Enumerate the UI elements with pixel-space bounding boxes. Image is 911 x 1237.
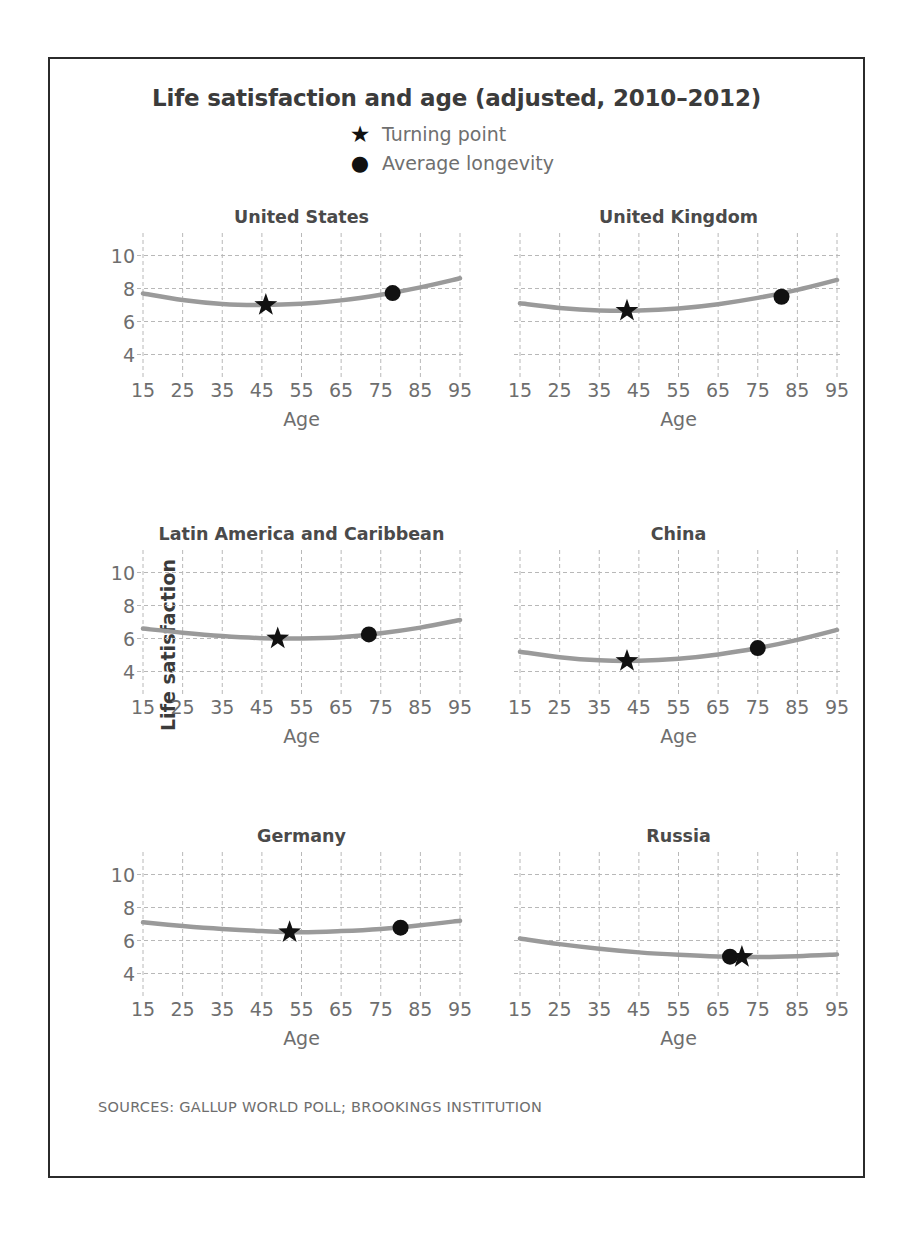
- x-tick-label: 75: [746, 696, 770, 718]
- marker-turning-point: [254, 293, 277, 315]
- x-tick-label: 85: [785, 998, 809, 1020]
- y-tick-label: 6: [123, 930, 135, 952]
- x-tick-label: 25: [548, 696, 572, 718]
- x-tick-label: 65: [706, 379, 730, 401]
- y-tick-label: 6: [123, 311, 135, 333]
- trend-line: [520, 939, 837, 957]
- x-tick-label: 85: [785, 379, 809, 401]
- plot-area-russia: [520, 858, 837, 990]
- x-axis-title: Age: [143, 725, 460, 747]
- x-tick-label: 75: [746, 379, 770, 401]
- y-tick-label: 10: [111, 562, 135, 584]
- panel-germany: Germany46810152535455565758595Age: [95, 826, 467, 1051]
- x-axis-title: Age: [143, 1027, 460, 1049]
- plot-canvas: [520, 556, 837, 688]
- x-axis-title: Age: [520, 725, 837, 747]
- plot-canvas: [520, 239, 837, 371]
- x-tick-label: 55: [666, 379, 690, 401]
- plot-canvas: [520, 858, 837, 990]
- x-axis-title: Age: [520, 1027, 837, 1049]
- x-tick-labels: 152535455565758595: [143, 998, 460, 1024]
- y-tick-labels: 46810: [95, 858, 135, 990]
- x-tick-label: 15: [131, 696, 155, 718]
- x-tick-label: 35: [210, 696, 234, 718]
- x-tick-label: 55: [289, 696, 313, 718]
- x-tick-label: 65: [329, 998, 353, 1020]
- x-tick-label: 45: [627, 998, 651, 1020]
- y-tick-label: 8: [123, 278, 135, 300]
- plot-canvas: [143, 556, 460, 688]
- x-tick-label: 45: [250, 998, 274, 1020]
- x-tick-label: 25: [548, 998, 572, 1020]
- x-tick-label: 75: [369, 998, 393, 1020]
- x-tick-label: 65: [329, 696, 353, 718]
- x-tick-label: 25: [171, 696, 195, 718]
- x-tick-label: 55: [289, 379, 313, 401]
- panel-title-russia: Russia: [496, 826, 861, 846]
- circle-icon: ●: [347, 150, 373, 176]
- marker-average-longevity: [393, 920, 409, 936]
- legend-entry-turning-point: ★ Turning point: [347, 121, 506, 147]
- legend-label-average-longevity: Average longevity: [382, 152, 554, 174]
- plot-area-germany: [143, 858, 460, 990]
- x-axis-title: Age: [143, 408, 460, 430]
- x-tick-label: 85: [408, 696, 432, 718]
- x-tick-label: 95: [448, 998, 472, 1020]
- marker-average-longevity: [361, 626, 377, 642]
- x-tick-label: 85: [408, 998, 432, 1020]
- panel-united-kingdom: United Kingdom152535455565758595Age: [472, 207, 844, 432]
- marker-turning-point: [616, 299, 639, 321]
- panel-title-united-kingdom: United Kingdom: [496, 207, 861, 227]
- x-tick-label: 95: [448, 379, 472, 401]
- x-tick-labels: 152535455565758595: [520, 696, 837, 722]
- plot-area-united-kingdom: [520, 239, 837, 371]
- x-tick-label: 65: [706, 696, 730, 718]
- plot-area-latin-america-and-caribbean: [143, 556, 460, 688]
- panel-latin-america-and-caribbean: Latin America and Caribbean4681015253545…: [95, 524, 467, 749]
- chart-figure: Life satisfaction and age (adjusted, 201…: [48, 57, 865, 1178]
- x-tick-labels: 152535455565758595: [520, 379, 837, 405]
- marker-average-longevity: [385, 285, 401, 301]
- x-tick-label: 15: [508, 379, 532, 401]
- x-tick-label: 35: [587, 696, 611, 718]
- x-tick-label: 55: [666, 696, 690, 718]
- marker-turning-point: [278, 920, 301, 942]
- plot-area-united-states: [143, 239, 460, 371]
- panel-title-germany: Germany: [119, 826, 484, 846]
- x-tick-label: 95: [825, 379, 849, 401]
- marker-average-longevity: [774, 289, 790, 305]
- x-tick-label: 35: [210, 998, 234, 1020]
- y-tick-label: 10: [111, 245, 135, 267]
- x-tick-label: 95: [448, 696, 472, 718]
- x-tick-label: 15: [131, 998, 155, 1020]
- x-tick-label: 75: [369, 379, 393, 401]
- y-tick-label: 8: [123, 897, 135, 919]
- panel-china: China152535455565758595Age: [472, 524, 844, 749]
- x-tick-label: 45: [627, 696, 651, 718]
- x-tick-label: 55: [289, 998, 313, 1020]
- x-tick-label: 25: [548, 379, 572, 401]
- y-tick-labels: 46810: [95, 556, 135, 688]
- x-tick-label: 25: [171, 998, 195, 1020]
- x-tick-label: 85: [408, 379, 432, 401]
- y-tick-label: 4: [123, 344, 135, 366]
- x-tick-label: 65: [706, 998, 730, 1020]
- x-tick-label: 35: [587, 379, 611, 401]
- x-tick-label: 75: [369, 696, 393, 718]
- x-tick-label: 85: [785, 696, 809, 718]
- plot-canvas: [143, 239, 460, 371]
- y-tick-label: 8: [123, 595, 135, 617]
- panel-russia: Russia152535455565758595Age: [472, 826, 844, 1051]
- x-tick-label: 15: [508, 696, 532, 718]
- x-axis-title: Age: [520, 408, 837, 430]
- panel-title-china: China: [496, 524, 861, 544]
- x-tick-label: 75: [746, 998, 770, 1020]
- legend-entry-average-longevity: ● Average longevity: [347, 150, 554, 176]
- y-tick-labels: 46810: [95, 239, 135, 371]
- panel-title-united-states: United States: [119, 207, 484, 227]
- x-tick-label: 35: [210, 379, 234, 401]
- marker-turning-point: [266, 627, 289, 649]
- x-tick-label: 45: [250, 696, 274, 718]
- x-tick-label: 25: [171, 379, 195, 401]
- page-title: Life satisfaction and age (adjusted, 201…: [50, 85, 863, 111]
